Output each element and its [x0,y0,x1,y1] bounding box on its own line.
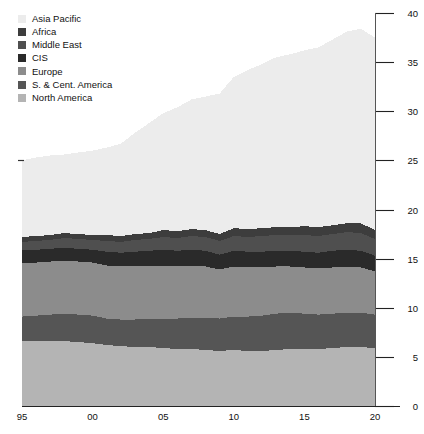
legend-label-europe: Europe [32,67,63,77]
legend-item-europe[interactable]: Europe [18,65,112,78]
x-tick-label: 20 [363,411,387,422]
legend-label-cis: CIS [32,53,48,63]
legend-item-middle-east[interactable]: Middle East [18,38,112,51]
legend-label-middle-east: Middle East [32,40,82,50]
legend-swatch-asia-pacific [18,15,26,23]
y-tick-label: 35 [396,57,418,68]
legend-item-africa[interactable]: Africa [18,25,112,38]
legend-item-asia-pacific[interactable]: Asia Pacific [18,12,112,25]
y-tick-label: 30 [396,106,418,117]
legend-swatch-europe [18,67,26,75]
x-tick-label: 95 [10,411,34,422]
legend-swatch-cis [18,54,26,62]
y-tick-label: 25 [396,155,418,166]
legend-label-s-cent-america: S. & Cent. America [32,80,112,90]
stacked-area-chart: Asia Pacific Africa Middle East CIS Euro… [0,0,424,434]
y-tick-label: 5 [396,352,418,363]
x-tick-label: 15 [292,411,316,422]
y-tick-label: 20 [396,205,418,216]
y-tick-label: 15 [396,254,418,265]
legend-item-cis[interactable]: CIS [18,52,112,65]
x-tick-label: 10 [222,411,246,422]
area-band-north-america [22,341,375,406]
x-tick-label: 00 [81,411,105,422]
legend-item-s-cent-america[interactable]: S. & Cent. America [18,78,112,91]
y-tick-label: 10 [396,303,418,314]
y-tick-label: 0 [396,401,418,412]
legend-swatch-africa [18,28,26,36]
legend-label-north-america: North America [32,93,92,103]
area-band-europe [22,261,375,320]
chart-legend: Asia Pacific Africa Middle East CIS Euro… [18,12,112,104]
legend-label-asia-pacific: Asia Pacific [32,14,81,24]
legend-label-africa: Africa [32,27,56,37]
x-tick-label: 05 [151,411,175,422]
y-tick-label: 40 [396,8,418,19]
legend-swatch-middle-east [18,41,26,49]
legend-swatch-s-cent-america [18,81,26,89]
legend-item-north-america[interactable]: North America [18,91,112,104]
legend-swatch-north-america [18,94,26,102]
